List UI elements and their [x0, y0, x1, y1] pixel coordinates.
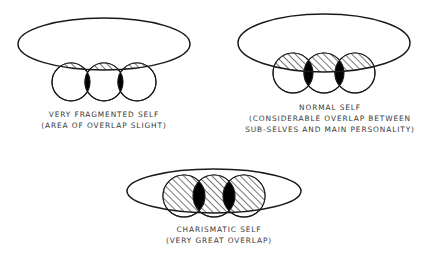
caption-line: SUB-SELVES AND MAIN PERSONALITY)	[245, 125, 415, 134]
caption-line: NORMAL SELF	[299, 103, 361, 112]
caption-line: (AREA OF OVERLAP SLIGHT)	[41, 121, 167, 130]
caption-line: CHARISMATIC SELF	[177, 225, 262, 234]
caption-line: (VERY GREAT OVERLAP)	[166, 236, 272, 245]
self-overlap-diagram: VERY FRAGMENTED SELF(AREA OF OVERLAP SLI…	[0, 0, 447, 261]
caption-line: (CONSIDERABLE OVERLAP BETWEEN	[249, 114, 411, 123]
caption-line: VERY FRAGMENTED SELF	[49, 110, 160, 119]
